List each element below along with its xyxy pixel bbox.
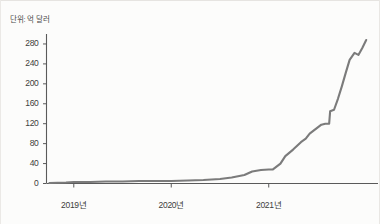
y-tick-label: 120 xyxy=(13,118,39,128)
plot-area: 04080120160200240280 2019년2020년2021년 xyxy=(0,0,380,224)
chart-svg xyxy=(0,0,380,224)
x-tick-label: 2021년 xyxy=(246,198,292,210)
y-tick-label: 0 xyxy=(13,178,39,188)
y-tick-label: 280 xyxy=(13,38,39,48)
y-tick-label: 240 xyxy=(13,58,39,68)
x-tick-marks xyxy=(74,184,269,188)
y-tick-label: 40 xyxy=(13,158,39,168)
x-tick-label: 2020년 xyxy=(148,198,194,210)
x-tick-label: 2019년 xyxy=(51,198,97,210)
y-tick-label: 160 xyxy=(13,98,39,108)
y-tick-label: 200 xyxy=(13,78,39,88)
y-tick-label: 80 xyxy=(13,138,39,148)
chart-figure: 단위: 억 달러 04080120160200240280 2019년2020년… xyxy=(0,0,380,224)
data-line-series-0 xyxy=(49,40,366,183)
